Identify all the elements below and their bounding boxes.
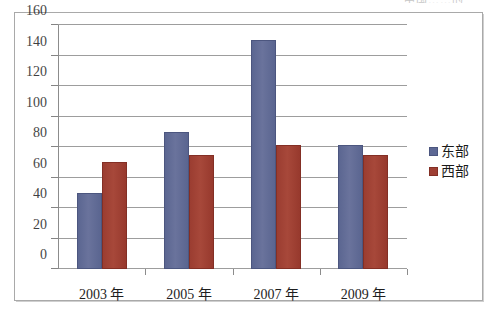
bar-group: 15081 (233, 25, 320, 269)
y-tick-label-80: 80 (33, 126, 47, 140)
bar-east[interactable]: 150 (251, 40, 276, 269)
bar-group: 9075 (145, 25, 232, 269)
y-tick-label-140: 140 (26, 35, 47, 49)
bar-east[interactable]: 50 (77, 193, 102, 269)
y-tick-label-40: 40 (33, 187, 47, 201)
bar-east[interactable]: 81 (338, 145, 363, 269)
x-tick-label: 2009 年 (341, 283, 387, 303)
chart-frame: 020406080100120140160 50709075150818175 … (14, 12, 483, 301)
y-tick-mark-40 (51, 207, 58, 208)
x-tick-mark (145, 269, 146, 275)
bar-group: 8175 (320, 25, 407, 269)
x-tick-label: 2005 年 (166, 283, 212, 303)
bar-west[interactable]: 75 (363, 155, 388, 269)
y-tick-mark-0 (51, 268, 58, 269)
y-tick-mark-80 (51, 146, 58, 147)
y-tick-label-20: 20 (33, 218, 47, 232)
y-tick-label-0: 0 (40, 248, 47, 262)
y-tick-mark-140 (51, 55, 58, 56)
bar-west[interactable]: 81 (276, 145, 301, 269)
y-tick-label-60: 60 (33, 157, 47, 171)
x-tick-label: 2003 年 (79, 283, 125, 303)
chart-legend: 东部 西部 (429, 141, 481, 182)
y-tick-mark-20 (51, 238, 58, 239)
legend-label-west: 西部 (441, 161, 469, 181)
legend-item-east[interactable]: 东部 (429, 141, 481, 161)
bar-west[interactable]: 75 (189, 155, 214, 269)
y-tick-mark-60 (51, 177, 58, 178)
legend-item-west[interactable]: 西部 (429, 161, 481, 181)
cut-off-caption-text: 中国……的 (404, 0, 496, 3)
y-tick-mark-100 (51, 116, 58, 117)
x-tick-mark (233, 269, 234, 275)
x-tick-mark (407, 269, 408, 275)
y-tick-label-160: 160 (26, 4, 47, 18)
y-tick-label-120: 120 (26, 65, 47, 79)
legend-label-east: 东部 (441, 141, 469, 161)
bar-group: 5070 (58, 25, 145, 269)
legend-swatch-east-icon (429, 147, 438, 156)
legend-swatch-west-icon (429, 167, 438, 176)
y-tick-label-100: 100 (26, 96, 47, 110)
bar-west[interactable]: 70 (102, 162, 127, 269)
x-tick-mark (320, 269, 321, 275)
y-tick-mark-160 (51, 24, 58, 25)
y-tick-mark-120 (51, 85, 58, 86)
plot-area: 020406080100120140160 50709075150818175 … (58, 25, 407, 269)
plot-wrapper: 020406080100120140160 50709075150818175 … (15, 13, 482, 300)
bar-east[interactable]: 90 (164, 132, 189, 269)
x-tick-label: 2007 年 (253, 283, 299, 303)
